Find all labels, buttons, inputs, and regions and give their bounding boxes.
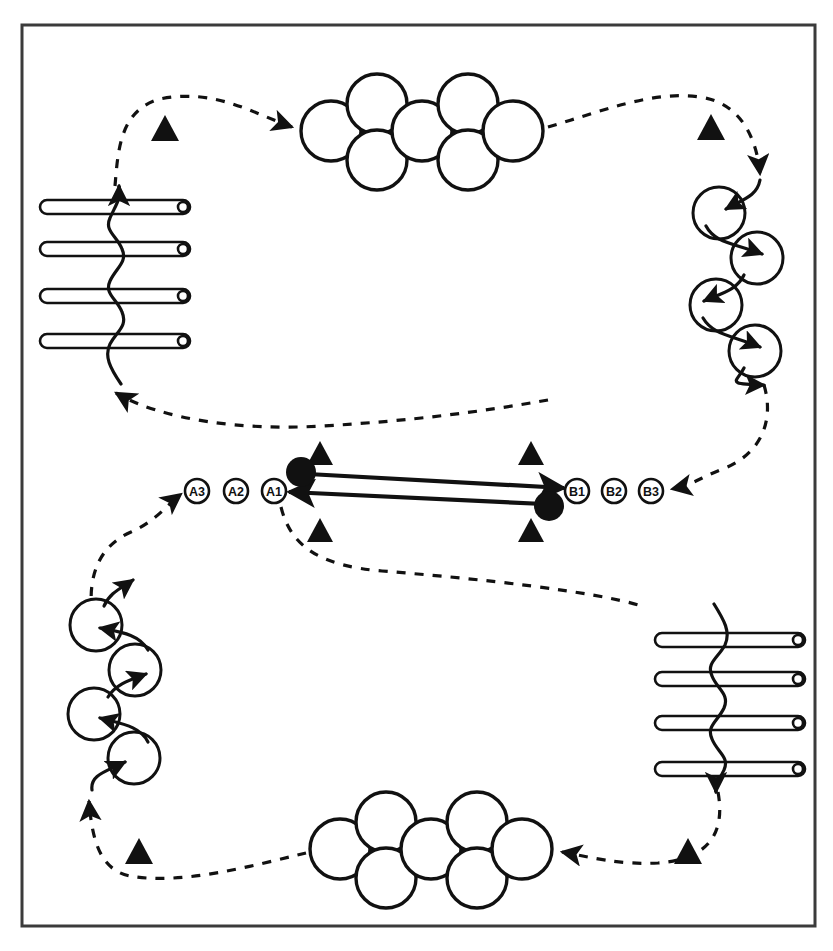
rod (655, 672, 805, 686)
node-a2[interactable]: A2 (224, 479, 248, 503)
rod-cap (178, 291, 188, 301)
node-b1[interactable]: B1 (565, 479, 589, 503)
node-b3-label: B3 (643, 485, 659, 499)
chain-circle (70, 599, 122, 651)
rod-cap (793, 764, 803, 774)
diagram-canvas: A3 A2 A1 B1 B2 B3 (0, 0, 833, 951)
rod (655, 633, 805, 647)
chain-circle (68, 688, 120, 740)
chain-circle (108, 732, 160, 784)
chain-circle (731, 232, 783, 284)
node-a3[interactable]: A3 (185, 479, 209, 503)
chain-circle (693, 187, 745, 239)
chain-circle (729, 325, 781, 377)
node-a1[interactable]: A1 (262, 479, 286, 503)
node-a3-label: A3 (189, 485, 205, 499)
rod (655, 716, 805, 730)
center-dot-right (534, 491, 564, 521)
rod (40, 242, 190, 256)
node-b3[interactable]: B3 (639, 479, 663, 503)
rod-cap (178, 244, 188, 254)
node-b2[interactable]: B2 (602, 479, 626, 503)
node-a1-label: A1 (266, 485, 282, 499)
node-b1-label: B1 (569, 485, 585, 499)
node-b2-label: B2 (606, 485, 622, 499)
cluster-circle (492, 819, 552, 879)
cluster-circle (483, 101, 543, 161)
rod (655, 762, 805, 776)
rod-cap (793, 718, 803, 728)
rod-cap (793, 635, 803, 645)
rod-cap (178, 336, 188, 346)
center-dot-left (286, 457, 316, 487)
node-a2-label: A2 (228, 485, 244, 499)
process-diagram: A3 A2 A1 B1 B2 B3 (0, 0, 833, 951)
rod-cap (793, 674, 803, 684)
rod-cap (178, 202, 188, 212)
